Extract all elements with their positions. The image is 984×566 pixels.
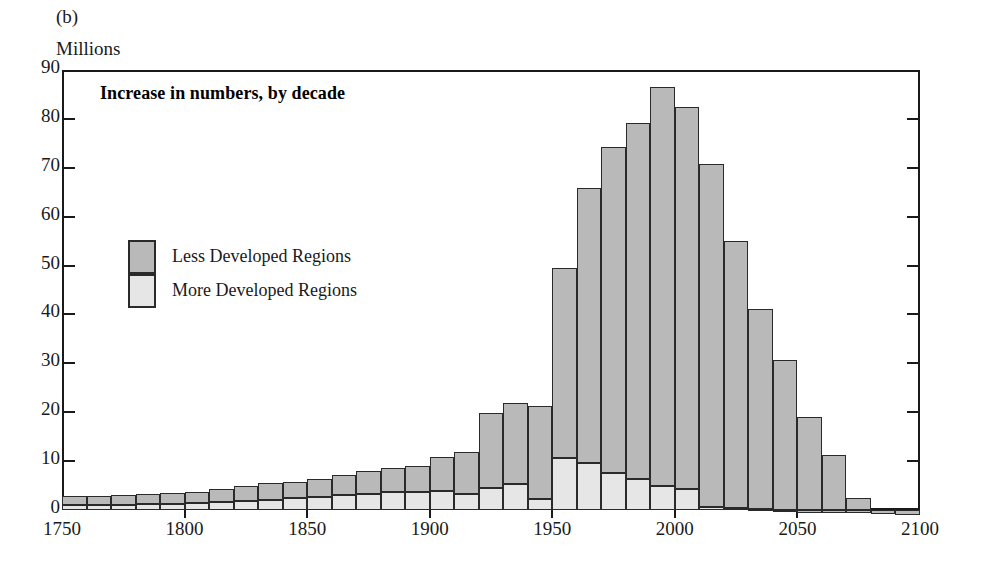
legend-label-more-developed: More Developed Regions bbox=[172, 280, 357, 300]
bar-segment-less-developed bbox=[381, 468, 406, 492]
bar-segment-less-developed bbox=[748, 309, 773, 508]
bar-segment-more-developed bbox=[601, 473, 626, 510]
bar-segment-less-developed bbox=[136, 494, 161, 504]
bar-segment-less-developed bbox=[185, 492, 210, 503]
bar-column bbox=[626, 0, 651, 566]
bar-segment-more-developed bbox=[258, 500, 283, 510]
y-tick-label: 60 bbox=[41, 204, 60, 223]
bar-segment-more-developed bbox=[332, 495, 357, 510]
bar-segment-more-developed bbox=[454, 494, 479, 510]
bar-segment-more-developed bbox=[699, 507, 724, 510]
bar-column bbox=[846, 0, 871, 566]
bar-column bbox=[871, 0, 896, 566]
bar-column bbox=[797, 0, 822, 566]
bar-segment-less-developed bbox=[650, 87, 675, 485]
bar-segment-more-developed bbox=[160, 504, 185, 510]
bar-segment-more-developed bbox=[234, 501, 259, 510]
bar-segment-less-developed bbox=[675, 107, 700, 490]
bar-segment-more-developed bbox=[381, 492, 406, 510]
legend-item-less: Less Developed Regions bbox=[128, 240, 428, 274]
y-tick-label: 40 bbox=[41, 301, 60, 320]
bar-segment-less-developed bbox=[332, 475, 357, 495]
bar-segment-more-developed bbox=[185, 503, 210, 510]
bar-segment-less-developed bbox=[601, 147, 626, 474]
y-tick-label: 30 bbox=[41, 350, 60, 369]
bar-column bbox=[748, 0, 773, 566]
bar-column bbox=[87, 0, 112, 566]
bar-segment-less-developed bbox=[258, 483, 283, 500]
bar-segment-more-developed bbox=[748, 509, 773, 511]
bar-segment-more-developed-negative bbox=[822, 510, 847, 513]
bar-column bbox=[479, 0, 504, 566]
bar-column bbox=[503, 0, 528, 566]
bar-column bbox=[552, 0, 577, 566]
bar-segment-less-developed bbox=[430, 457, 455, 491]
bar-segment-more-developed bbox=[626, 479, 651, 510]
bar-segment-less-developed bbox=[87, 496, 112, 505]
bar-segment-less-developed bbox=[822, 455, 847, 510]
bar-segment-more-developed bbox=[87, 505, 112, 510]
bar-column bbox=[650, 0, 675, 566]
bar-column bbox=[430, 0, 455, 566]
bar-column bbox=[528, 0, 553, 566]
bar-column bbox=[601, 0, 626, 566]
bar-segment-more-developed bbox=[650, 486, 675, 510]
chart-figure: (b) Millions Increase in numbers, by dec… bbox=[0, 0, 984, 566]
bar-segment-more-developed-negative bbox=[895, 510, 920, 515]
bar-segment-less-developed bbox=[503, 403, 528, 484]
bar-column bbox=[62, 0, 87, 566]
bar-segment-more-developed bbox=[577, 463, 602, 510]
bar-column bbox=[895, 0, 920, 566]
bar-segment-less-developed bbox=[234, 486, 259, 501]
bar-column bbox=[577, 0, 602, 566]
bar-column bbox=[675, 0, 700, 566]
bar-segment-less-developed bbox=[552, 268, 577, 458]
bar-segment-more-developed bbox=[405, 492, 430, 510]
bar-segment-more-developed-negative bbox=[846, 510, 871, 513]
bar-segment-more-developed bbox=[356, 494, 381, 510]
bar-column bbox=[454, 0, 479, 566]
bar-segment-less-developed bbox=[626, 123, 651, 479]
bar-segment-less-developed bbox=[797, 417, 822, 510]
bar-segment-less-developed bbox=[699, 164, 724, 507]
bar-segment-more-developed-negative bbox=[871, 510, 896, 514]
legend-swatch-more-developed bbox=[128, 274, 156, 308]
y-tick-label: 80 bbox=[41, 106, 60, 125]
bar-segment-more-developed bbox=[528, 499, 553, 510]
bar-segment-more-developed bbox=[552, 458, 577, 510]
bar-segment-less-developed bbox=[111, 495, 136, 505]
bar-segment-more-developed bbox=[724, 508, 749, 510]
bar-segment-less-developed bbox=[160, 493, 185, 503]
bar-segment-more-developed bbox=[307, 497, 332, 510]
bar-column bbox=[822, 0, 847, 566]
legend-label-less-developed: Less Developed Regions bbox=[172, 246, 351, 266]
bar-segment-less-developed bbox=[528, 406, 553, 499]
bar-segment-more-developed bbox=[209, 502, 234, 510]
bar-segment-less-developed bbox=[62, 496, 87, 505]
chart-legend: Less Developed Regions More Developed Re… bbox=[128, 240, 428, 308]
legend-item-more: More Developed Regions bbox=[128, 274, 428, 308]
bar-segment-less-developed bbox=[209, 489, 234, 502]
bar-segment-less-developed bbox=[724, 241, 749, 507]
legend-swatch-less-developed bbox=[128, 240, 156, 274]
y-tick-label: 20 bbox=[41, 399, 60, 418]
bar-segment-more-developed bbox=[675, 489, 700, 510]
bar-segment-less-developed bbox=[773, 360, 798, 510]
bar-segment-more-developed bbox=[283, 498, 308, 510]
bar-segment-less-developed bbox=[405, 466, 430, 492]
bar-column bbox=[773, 0, 798, 566]
bar-segment-more-developed bbox=[111, 505, 136, 510]
bar-segment-less-developed bbox=[479, 413, 504, 488]
bar-segment-less-developed bbox=[577, 188, 602, 462]
bar-segment-more-developed bbox=[430, 491, 455, 510]
y-tick-label: 10 bbox=[41, 448, 60, 467]
bar-segment-more-developed-negative bbox=[797, 510, 822, 513]
bar-column bbox=[699, 0, 724, 566]
y-tick-label: 90 bbox=[41, 57, 60, 76]
bar-segment-less-developed bbox=[307, 479, 332, 497]
bar-segment-more-developed bbox=[479, 488, 504, 510]
bar-segment-more-developed bbox=[136, 504, 161, 510]
bar-segment-more-developed bbox=[62, 505, 87, 510]
bar-segment-more-developed bbox=[503, 484, 528, 510]
bar-segment-less-developed bbox=[283, 482, 308, 499]
